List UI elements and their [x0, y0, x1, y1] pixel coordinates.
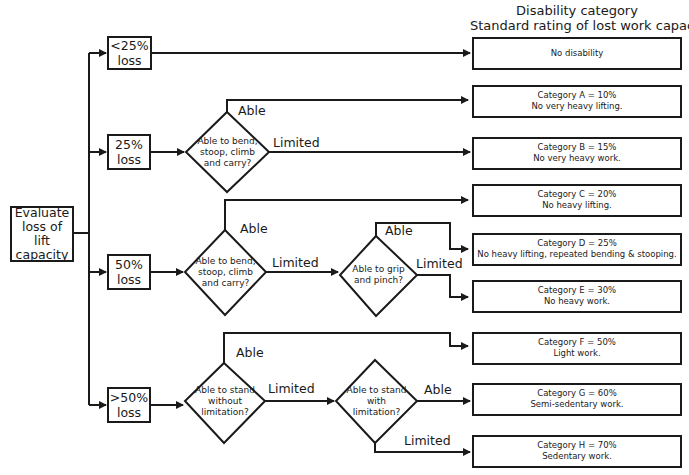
loss-word: loss [108, 152, 150, 167]
question-line: Able to bend, [185, 256, 266, 267]
question-line: Able to bend, [186, 136, 269, 147]
loss-label-lt25: <25% loss [108, 38, 151, 68]
question-label-stand-with: Able to stand with limitation? [336, 385, 417, 418]
outcome-label-no-disability: No disability [473, 48, 681, 59]
outcome-label-a: Category A = 10% No very heavy lifting. [473, 90, 681, 112]
question-label-bend-50: Able to bend, stoop, climb and carry? [185, 256, 266, 289]
question-line: Able to stand [185, 385, 265, 396]
question-line: and pinch? [340, 275, 417, 286]
outcome-label-h: Category H = 70% Sedentary work. [473, 440, 681, 462]
start-line: Evaluate [11, 206, 73, 220]
branch-label-limited: Limited [272, 256, 319, 270]
outcome-description: No very heavy work. [473, 153, 681, 164]
header-line-1: Disability category [470, 3, 684, 18]
loss-label-gt50: >50% loss [108, 390, 150, 420]
header-line-2: Standard rating of lost work capacity [470, 18, 684, 33]
question-line: Able to grip [340, 264, 417, 275]
branch-label-able: Able [424, 383, 452, 397]
branch-label-able: Able [236, 346, 264, 360]
outcome-description: Light work. [473, 348, 681, 359]
start-label: Evaluate loss of lift capacity [11, 206, 73, 262]
branch-label-able: Able [240, 222, 268, 236]
question-line: and carry? [186, 158, 269, 169]
outcome-label-d: Category D = 25% No heavy lifting, repea… [473, 238, 681, 260]
question-line: with [336, 396, 417, 407]
outcome-category: Category C = 20% [473, 189, 681, 200]
outcome-description: Semi-sedentary work. [473, 399, 681, 410]
branch-label-limited: Limited [268, 382, 315, 396]
question-line: stoop, climb [186, 147, 269, 158]
outcome-description: No very heavy lifting. [473, 101, 681, 112]
start-line: lift [11, 234, 73, 248]
loss-word: loss [108, 53, 151, 68]
outcome-label-b: Category B = 15% No very heavy work. [473, 142, 681, 164]
outcome-description: No heavy lifting. [473, 200, 681, 211]
outcome-category: Category B = 15% [473, 142, 681, 153]
outcome-description: Sedentary work. [473, 451, 681, 462]
question-line: without [185, 396, 265, 407]
outcome-description: No heavy work. [473, 296, 681, 307]
branch-label-able: Able [385, 224, 413, 238]
branch-label-limited: Limited [416, 257, 463, 271]
outcome-label-e: Category E = 30% No heavy work. [473, 285, 681, 307]
outcome-category: Category F = 50% [473, 337, 681, 348]
outcome-category: Category G = 60% [473, 388, 681, 399]
question-label-bend-25: Able to bend, stoop, climb and carry? [186, 136, 269, 169]
outcome-label-g: Category G = 60% Semi-sedentary work. [473, 388, 681, 410]
question-line: Able to stand [336, 385, 417, 396]
branch-label-limited: Limited [404, 434, 451, 448]
outcome-category: Category H = 70% [473, 440, 681, 451]
start-line: capacity [11, 248, 73, 262]
outcome-category: Category E = 30% [473, 285, 681, 296]
branch-label-able: Able [238, 104, 266, 118]
outcome-label-c: Category C = 20% No heavy lifting. [473, 189, 681, 211]
question-line: limitation? [336, 407, 417, 418]
outcome-column-header: Disability category Standard rating of l… [470, 3, 684, 33]
loss-percent: 25% [108, 137, 150, 152]
question-label-stand-without: Able to stand without limitation? [185, 385, 265, 418]
question-label-grip: Able to grip and pinch? [340, 264, 417, 286]
loss-word: loss [108, 272, 150, 287]
loss-word: loss [108, 405, 150, 420]
branch-label-limited: Limited [273, 136, 320, 150]
outcome-category: Category A = 10% [473, 90, 681, 101]
loss-label-25: 25% loss [108, 137, 150, 167]
loss-percent: >50% [108, 390, 150, 405]
loss-percent: <25% [108, 38, 151, 53]
outcome-label-f: Category F = 50% Light work. [473, 337, 681, 359]
question-line: limitation? [185, 407, 265, 418]
outcome-description: No heavy lifting, repeated bending & sto… [473, 249, 681, 260]
outcome-category: No disability [473, 48, 681, 59]
start-line: loss of [11, 220, 73, 234]
loss-label-50: 50% loss [108, 257, 150, 287]
loss-percent: 50% [108, 257, 150, 272]
question-line: and carry? [185, 278, 266, 289]
outcome-category: Category D = 25% [473, 238, 681, 249]
question-line: stoop, climb [185, 267, 266, 278]
